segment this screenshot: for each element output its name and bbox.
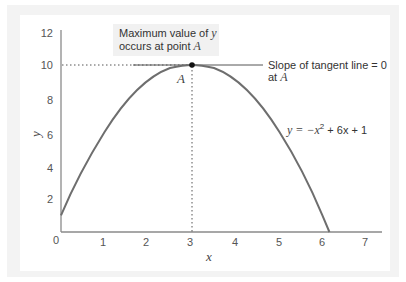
x-tick-4: 4	[232, 236, 238, 248]
y-tick-4: 4	[47, 162, 53, 174]
slope-annotation-line2: at A	[268, 70, 288, 84]
x-tick-7: 7	[362, 236, 368, 248]
max-annotation-line2: occurs at point A	[119, 39, 202, 53]
y-axis-title: y	[28, 131, 43, 139]
y-tick-10: 10	[41, 59, 53, 71]
equation-label: y = −x2 + 6x + 1	[286, 122, 367, 137]
x-tick-6: 6	[319, 236, 325, 248]
chart-svg: 12 10 8 6 4 2 0 1 2 3 4 5 6 7 x y A Maxi…	[0, 0, 406, 282]
x-tick-2: 2	[143, 236, 149, 248]
point-a-marker	[189, 62, 195, 68]
point-a-label: A	[176, 71, 185, 86]
parabola-curve	[61, 65, 329, 232]
x-tick-1: 1	[100, 236, 106, 248]
x-tick-0: 0	[53, 234, 59, 246]
y-tick-12: 12	[41, 27, 53, 39]
y-tick-2: 2	[47, 193, 53, 205]
y-tick-8: 8	[47, 94, 53, 106]
x-tick-3: 3	[187, 236, 193, 248]
x-tick-5: 5	[276, 236, 282, 248]
x-axis-title: x	[205, 249, 212, 264]
y-tick-6: 6	[47, 129, 53, 141]
max-annotation-line1: Maximum value of y	[119, 26, 217, 40]
figure: 12 10 8 6 4 2 0 1 2 3 4 5 6 7 x y A Maxi…	[0, 0, 406, 282]
